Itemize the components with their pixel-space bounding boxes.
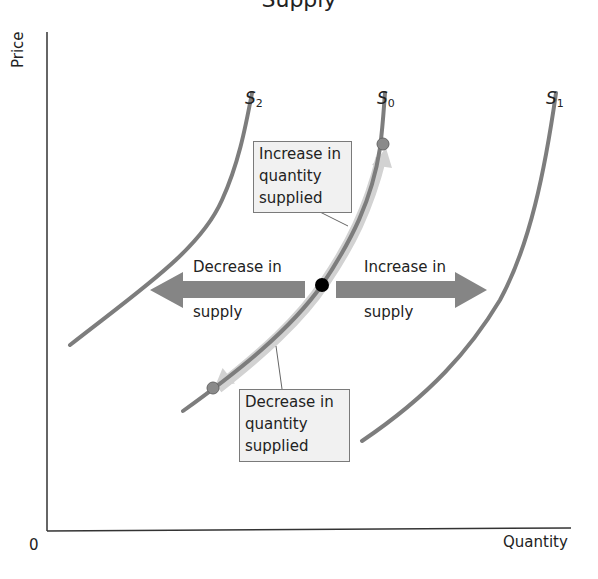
curve-label-s1: S1 — [546, 88, 564, 110]
curve-label-s1-sub: 1 — [557, 97, 564, 110]
supply-diagram — [0, 0, 598, 579]
x-axis — [47, 528, 571, 531]
lower-point — [207, 382, 219, 394]
callout-line: supplied — [245, 435, 344, 457]
callout-line: Increase in — [259, 143, 346, 165]
callout-line: supplied — [259, 187, 346, 209]
upper-point — [377, 138, 389, 150]
curve-label-s2-main: S — [245, 88, 256, 108]
increase-quantity-supplied-callout: Increase in quantity supplied — [253, 141, 352, 213]
decrease-quantity-supplied-callout: Decrease in quantity supplied — [239, 389, 350, 462]
curve-label-s2: S2 — [245, 88, 263, 110]
figure-title: Supply — [0, 0, 598, 12]
y-axis-label: Price — [9, 31, 27, 68]
curve-label-s0-sub: 0 — [388, 97, 395, 110]
curve-label-s1-main: S — [546, 88, 557, 108]
callout-line: quantity — [259, 165, 346, 187]
callout-line: quantity — [245, 413, 344, 435]
decrease-qs-leader — [276, 346, 282, 389]
callout-line: Decrease in — [245, 391, 344, 413]
curve-label-s0: S0 — [377, 88, 395, 110]
increase-supply-label-line2: supply — [364, 303, 413, 321]
origin-label: 0 — [29, 536, 39, 554]
decrease-supply-label-line1: Decrease in — [193, 258, 282, 276]
increase-qs-leader — [320, 212, 348, 226]
equilibrium-point — [315, 278, 329, 292]
increase-supply-label-line1: Increase in — [364, 258, 446, 276]
decrease-supply-label-line2: supply — [193, 303, 242, 321]
curve-label-s2-sub: 2 — [256, 97, 263, 110]
x-axis-label: Quantity — [503, 533, 568, 551]
curve-label-s0-main: S — [377, 88, 388, 108]
